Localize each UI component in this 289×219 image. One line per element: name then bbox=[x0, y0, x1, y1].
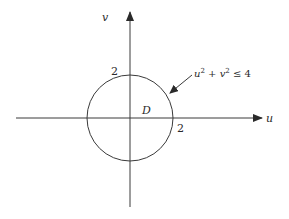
u-axis-tick-2: 2 bbox=[177, 122, 184, 135]
diagram-canvas: v u 2 2 D u2 + v2 ≤ 4 bbox=[0, 0, 289, 219]
inequality-plus: + bbox=[205, 68, 220, 79]
inequality-rel: ≤ 4 bbox=[230, 68, 251, 79]
inequality-label: u2 + v2 ≤ 4 bbox=[194, 67, 251, 79]
u-axis-label: u bbox=[266, 112, 273, 125]
region-label-d: D bbox=[141, 104, 151, 117]
v-axis-tick-2: 2 bbox=[111, 65, 118, 78]
v-axis-label: v bbox=[102, 11, 109, 24]
pointer-arrow bbox=[170, 75, 192, 93]
